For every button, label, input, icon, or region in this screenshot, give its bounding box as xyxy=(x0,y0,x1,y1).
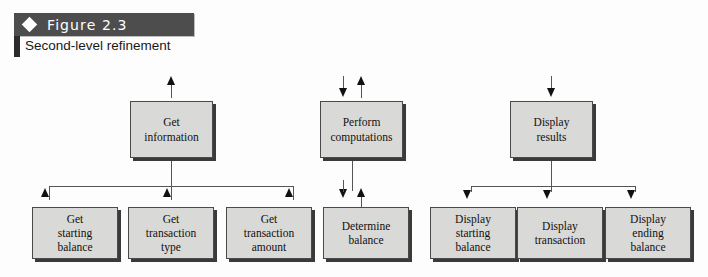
connector-line xyxy=(471,186,472,192)
figure-caption-accent-bar xyxy=(14,36,20,57)
box-line-3: amount xyxy=(244,240,294,254)
box-line-1: Get xyxy=(244,212,294,226)
box-line-2: transaction xyxy=(146,226,196,240)
connector-line xyxy=(49,186,50,200)
process-box-perform-computations: Perform computations xyxy=(320,101,403,158)
connector-line xyxy=(551,186,552,192)
diamond-icon xyxy=(22,17,38,33)
process-box-get-starting-balance: Get starting balance xyxy=(32,207,118,259)
box-line-3: balance xyxy=(57,240,92,254)
box-line-3: balance xyxy=(455,240,491,254)
arrow-down-display-transaction xyxy=(543,190,551,199)
box-line-3: balance xyxy=(630,240,666,254)
figure-number-label: Figure 2.3 xyxy=(47,17,127,33)
arrow-up-determine-balance xyxy=(357,188,365,197)
box-line-1: Display xyxy=(455,212,491,226)
arrow-up-get-transaction-amount xyxy=(285,188,293,197)
process-box-display-starting-balance: Display starting balance xyxy=(430,207,516,259)
box-line-2: computations xyxy=(331,130,393,144)
box-line-1: Determine xyxy=(342,219,391,233)
box-line-1: Perform xyxy=(331,115,393,129)
box-line-2: starting xyxy=(455,226,491,240)
box-line-2: starting xyxy=(57,226,92,240)
connector-line xyxy=(551,161,552,186)
box-line-2: information xyxy=(144,130,198,144)
figure-caption: Second-level refinement xyxy=(25,38,171,53)
box-line-1: Get xyxy=(57,212,92,226)
box-line-1: Display xyxy=(630,212,666,226)
arrow-down-perform-computations-in xyxy=(339,88,347,97)
box-line-1: Display xyxy=(534,115,570,129)
arrow-down-display-results-in xyxy=(547,88,555,97)
connector-line xyxy=(352,161,353,191)
box-line-3: type xyxy=(146,240,196,254)
arrow-up-get-transaction-type xyxy=(163,188,171,197)
process-box-get-transaction-type: Get transaction type xyxy=(128,207,214,259)
connector-line xyxy=(635,186,636,192)
connector-line xyxy=(293,186,294,200)
figure-banner: Figure 2.3 xyxy=(14,13,194,36)
process-box-get-transaction-amount: Get transaction amount xyxy=(226,207,312,259)
process-box-get-information: Get information xyxy=(130,101,213,158)
process-box-determine-balance: Determine balance xyxy=(323,207,409,259)
connector-bus-right xyxy=(471,186,635,187)
arrow-up-get-information-in xyxy=(167,76,175,85)
box-line-2: transaction xyxy=(244,226,294,240)
connector-line xyxy=(171,161,172,186)
box-line-1: Get xyxy=(144,115,198,129)
box-line-2: ending xyxy=(630,226,666,240)
box-line-1: Get xyxy=(146,212,196,226)
arrow-down-display-ending-balance xyxy=(627,190,635,199)
process-box-display-transaction: Display transaction xyxy=(517,207,603,259)
box-line-2: results xyxy=(534,130,570,144)
figure-canvas: Figure 2.3 Second-level refinement Get i… xyxy=(0,0,708,277)
process-box-display-ending-balance: Display ending balance xyxy=(605,207,691,259)
connector-line xyxy=(171,186,172,200)
box-line-2: transaction xyxy=(535,233,585,247)
connector-line xyxy=(361,197,362,207)
connector-line xyxy=(361,84,362,98)
box-line-1: Display xyxy=(535,219,585,233)
arrow-up-perform-computations-in xyxy=(357,76,365,85)
arrow-down-display-starting-balance xyxy=(463,190,471,199)
arrow-up-get-starting-balance xyxy=(41,188,49,197)
connector-line xyxy=(343,180,344,192)
connector-line xyxy=(171,84,172,98)
box-line-2: balance xyxy=(342,233,391,247)
process-box-display-results: Display results xyxy=(510,101,593,158)
